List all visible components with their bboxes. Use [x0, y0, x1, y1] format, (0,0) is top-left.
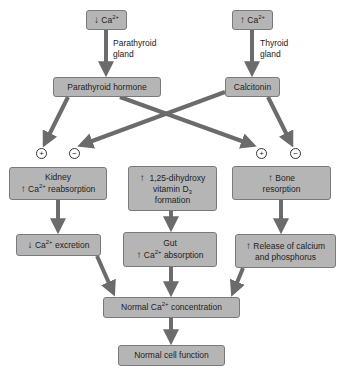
node-text: Bone: [275, 173, 295, 183]
up-arrow-icon: ↑: [246, 240, 251, 251]
node-parathyroid-hormone: Parathyroid hormone: [53, 77, 161, 97]
node-text: 1,25-dihydroxy: [149, 173, 205, 183]
down-arrow-icon: ↓: [94, 14, 99, 25]
up-arrow-icon: ↑: [140, 172, 145, 183]
node-text: reabsorption: [46, 184, 96, 194]
node-text: concentration: [169, 302, 222, 312]
node-normal-calcium-concentration: Normal Ca2+ concentration: [103, 297, 240, 318]
node-vitamin-d3-formation: ↑ 1,25-dihydroxy vitamin D3 formation: [128, 166, 217, 211]
node-text: Ca: [28, 184, 39, 194]
node-low-calcium: ↓ Ca2+: [86, 10, 127, 30]
node-kidney-reabsorption: Kidney ↑ Ca2+ reabsorption: [9, 167, 107, 200]
arrow-pth-to-kidney-plus: [46, 97, 68, 141]
node-text: Parathyroid hormone: [67, 82, 146, 93]
node-text: absorption: [162, 250, 204, 260]
label-line: Thyroid: [260, 38, 288, 49]
node-text: Ca: [144, 250, 155, 260]
node-text: Ca: [35, 240, 46, 250]
node-gut-absorption: Gut ↑ Ca2+ absorption: [123, 232, 217, 267]
node-text: Calcitonin: [234, 82, 271, 93]
up-arrow-icon: ↑: [240, 14, 245, 25]
up-arrow-icon: ↑: [268, 172, 273, 183]
arrow-calcitonin-to-kidney-minus: [84, 92, 225, 144]
node-text: Kidney: [45, 172, 71, 183]
up-arrow-icon: ↑: [21, 183, 26, 194]
node-calcium-excretion: ↓ Ca2+ excretion: [16, 234, 101, 256]
edge-label-parathyroid-gland: Parathyroid gland: [113, 38, 156, 60]
edge-label-thyroid-gland: Thyroid gland: [260, 38, 288, 60]
superscript: 2+: [258, 14, 265, 20]
node-text: Gut: [163, 238, 177, 249]
node-text: resorption: [263, 184, 301, 195]
minus-sign-icon: −: [69, 148, 80, 159]
arrow-excretion-to-normal: [97, 256, 112, 290]
node-high-calcium: ↑ Ca2+: [232, 10, 273, 30]
node-text: Ca: [101, 15, 112, 25]
label-line: gland: [113, 49, 156, 60]
node-text: excretion: [53, 240, 90, 250]
node-text: Normal Ca: [121, 302, 162, 312]
node-bone-resorption: ↑ Bone resorption: [232, 166, 331, 200]
superscript: 2+: [39, 183, 46, 189]
superscript: 2+: [162, 301, 169, 307]
node-release-calcium-phosphorus: ↑ Release of calcium and phosphorus: [235, 234, 336, 268]
node-text: vitamin D: [153, 184, 188, 194]
plus-sign-icon: +: [256, 148, 267, 159]
node-text: formation: [155, 195, 190, 206]
label-line: Parathyroid: [113, 38, 156, 49]
arrow-pth-to-bone-plus: [120, 97, 250, 144]
node-calcitonin: Calcitonin: [225, 77, 280, 97]
node-text: Normal cell function: [134, 350, 209, 361]
label-line: gland: [260, 49, 288, 60]
node-text: Release of calcium: [253, 241, 325, 251]
node-text: Ca: [247, 15, 258, 25]
down-arrow-icon: ↓: [28, 239, 33, 250]
superscript: 2+: [112, 14, 119, 20]
node-normal-cell-function: Normal cell function: [118, 345, 225, 366]
superscript: 2+: [46, 239, 53, 245]
superscript: 2+: [155, 249, 162, 255]
up-arrow-icon: ↑: [136, 249, 141, 260]
arrow-calcitonin-to-bone-minus: [268, 97, 290, 141]
plus-sign-icon: +: [36, 148, 47, 159]
minus-sign-icon: −: [290, 148, 301, 159]
node-text: and phosphorus: [255, 252, 316, 263]
arrow-release-to-normal: [234, 268, 243, 290]
